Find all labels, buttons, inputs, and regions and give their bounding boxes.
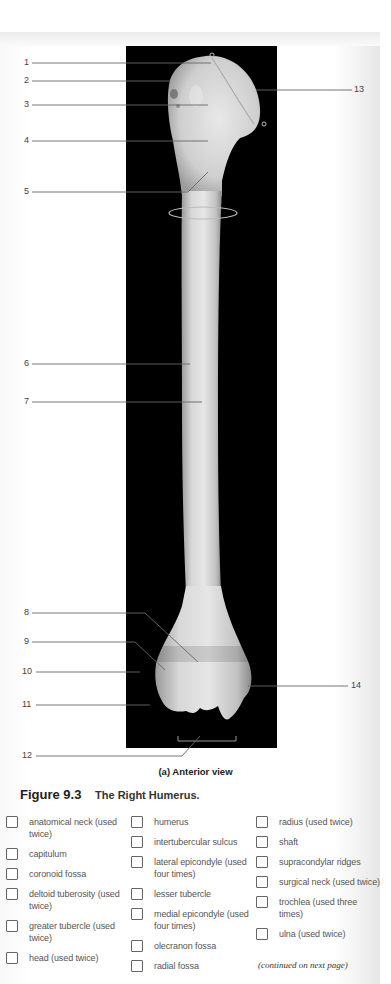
checkbox[interactable] [256,856,268,868]
term-item[interactable]: medial epicondyle (used four times) [131,908,257,932]
term-label: medial epicondyle (used four times) [154,908,257,932]
checkbox[interactable] [256,816,268,828]
checkbox[interactable] [131,888,143,900]
term-label: trochlea (used three times) [279,896,380,920]
humerus-photo [126,46,277,748]
checkbox[interactable] [131,856,143,868]
term-column-3: radius (used twice) shaft supracondylar … [256,816,380,948]
callout-9: 9 [24,636,29,646]
term-label: capitulum [29,848,67,860]
callout-1: 1 [24,57,29,67]
term-label: lesser tubercle [154,888,211,900]
term-label: greater tubercle (used twice) [29,920,130,944]
checkbox[interactable] [256,876,268,888]
checkbox[interactable] [256,836,268,848]
checkbox[interactable] [256,896,268,908]
callout-8: 8 [24,607,29,617]
callout-4: 4 [24,135,29,145]
term-label: lateral epicondyle (used four times) [154,856,257,880]
term-item[interactable]: lateral epicondyle (used four times) [131,856,257,880]
checkbox[interactable] [131,836,143,848]
term-label: anatomical neck (used twice) [29,816,130,840]
bracket-12 [178,736,236,741]
callout-12: 12 [22,750,32,760]
term-label: radius (used twice) [279,816,353,828]
term-item[interactable]: capitulum [6,848,130,860]
term-item[interactable]: supracondylar ridges [256,856,380,868]
checkbox[interactable] [6,888,18,900]
callout-5: 5 [24,186,29,196]
continued-note: (continued on next page) [258,960,348,970]
checkbox[interactable] [256,928,268,940]
humerus-bone-illustration [126,46,277,748]
term-label: olecranon fossa [154,940,216,952]
checkbox[interactable] [131,960,143,972]
callout-14: 14 [351,680,361,690]
term-label: humerus [154,816,188,828]
checkbox[interactable] [6,952,18,964]
term-label: ulna (used twice) [279,928,345,940]
checkbox[interactable] [6,848,18,860]
checkbox[interactable] [131,816,143,828]
term-label: shaft [279,836,298,848]
callout-13: 13 [354,84,364,94]
callout-3: 3 [24,99,29,109]
term-item[interactable]: shaft [256,836,380,848]
figure-title: Figure 9.3 The Right Humerus. [20,787,200,802]
term-item[interactable]: radial fossa [131,960,257,972]
term-item[interactable]: head (used twice) [6,952,130,964]
term-item[interactable]: surgical neck (used twice) [256,876,380,888]
callout-7: 7 [24,396,29,406]
callout-6: 6 [24,358,29,368]
term-label: radial fossa [154,960,199,972]
callout-2: 2 [24,75,29,85]
checkbox[interactable] [131,940,143,952]
term-item[interactable]: greater tubercle (used twice) [6,920,130,944]
checkbox[interactable] [131,908,143,920]
term-item[interactable]: anatomical neck (used twice) [6,816,130,840]
term-item[interactable]: coronoid fossa [6,868,130,880]
term-item[interactable]: olecranon fossa [131,940,257,952]
checkbox[interactable] [6,868,18,880]
checkbox[interactable] [6,920,18,932]
humerus-shaft [182,191,222,591]
term-label: deltoid tuberosity (used twice) [29,888,130,912]
figure-name: The Right Humerus. [95,789,200,801]
view-caption: (a) Anterior view [0,766,391,777]
term-item[interactable]: humerus [131,816,257,828]
page-top-edge [0,32,380,46]
term-label: coronoid fossa [29,868,86,880]
term-label: supracondylar ridges [279,856,361,868]
term-item[interactable]: intertubercular sulcus [131,836,257,848]
term-item[interactable]: radius (used twice) [256,816,380,828]
term-column-2: humerus intertubercular sulcus lateral e… [131,816,257,980]
figure-number: Figure 9.3 [20,787,81,802]
term-item[interactable]: deltoid tuberosity (used twice) [6,888,130,912]
term-item[interactable]: ulna (used twice) [256,928,380,940]
term-item[interactable]: trochlea (used three times) [256,896,380,920]
term-item[interactable]: lesser tubercle [131,888,257,900]
term-column-1: anatomical neck (used twice) capitulum c… [6,816,130,972]
term-checklist: anatomical neck (used twice) capitulum c… [0,816,380,984]
term-label: head (used twice) [29,952,98,964]
callout-11: 11 [22,699,31,709]
proximal-humerus [168,56,260,196]
callout-10: 10 [22,666,32,676]
term-label: surgical neck (used twice) [279,876,380,888]
checkbox[interactable] [6,816,18,828]
term-label: intertubercular sulcus [154,836,237,848]
